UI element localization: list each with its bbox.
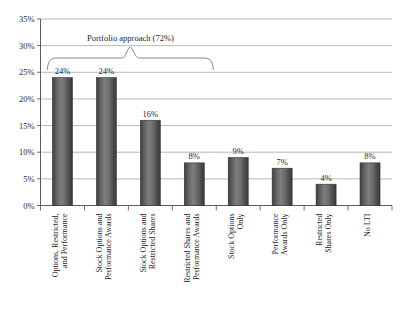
bar-value-label: 24%: [99, 66, 115, 76]
bar-value-label: 9%: [233, 146, 244, 156]
y-axis-tick-label: 35%: [19, 14, 35, 24]
x-axis-category-label: Options, Restricted,: [51, 214, 60, 278]
x-axis-category-label: Stock Options and: [95, 214, 104, 273]
annotation-label: Portfolio approach (72%): [87, 33, 174, 43]
bar: [140, 120, 160, 205]
bar: [96, 78, 116, 206]
y-axis-tick-label: 0%: [23, 201, 34, 211]
bar-value-label: 8%: [189, 151, 200, 161]
bar-chart-figure: 0%5%10%15%20%25%30%35% 24%24%16%8%9%7%4%…: [0, 0, 401, 315]
bar-value-label: 7%: [276, 157, 287, 167]
y-axis-tick-label: 10%: [19, 147, 35, 157]
chart-canvas: 0%5%10%15%20%25%30%35% 24%24%16%8%9%7%4%…: [0, 0, 401, 315]
x-axis-category-label: and Performance: [60, 213, 69, 268]
y-axis-tick-label: 25%: [19, 67, 35, 77]
x-axis-category-label: Performance: [271, 213, 280, 254]
bar: [316, 184, 336, 205]
bar-value-label: 16%: [143, 109, 159, 119]
bar: [228, 158, 248, 206]
y-axis-tick-label: 20%: [19, 94, 35, 104]
bar-value-label: 8%: [364, 151, 375, 161]
x-axis-category-label: Restricted: [315, 214, 324, 246]
x-axis-category-label: No LTI: [363, 213, 372, 237]
x-axis-category-label: Shares Only: [324, 214, 333, 253]
x-axis-category-label: Stock Options: [227, 214, 236, 260]
y-axis-tick-label: 15%: [19, 121, 35, 131]
bar: [184, 163, 204, 206]
x-axis-category-label: Restricted Shares and: [183, 214, 192, 283]
x-axis-category-label: Performance Awards: [192, 214, 201, 281]
bar: [272, 168, 292, 205]
bar: [360, 163, 380, 206]
x-axis-category-label: Awards Only: [280, 214, 289, 256]
bar: [52, 78, 72, 206]
bar-value-label: 4%: [320, 173, 331, 183]
bar-value-label: 24%: [55, 66, 71, 76]
y-axis-tick-label: 30%: [19, 41, 35, 51]
x-axis-category-label: Performance Awards: [104, 214, 113, 281]
x-axis-category-label: Stock Options and: [139, 214, 148, 273]
x-axis-category-label: Restricted Shares: [148, 214, 157, 270]
y-axis-tick-label: 5%: [23, 174, 34, 184]
x-axis-category-label: Only: [236, 214, 245, 230]
